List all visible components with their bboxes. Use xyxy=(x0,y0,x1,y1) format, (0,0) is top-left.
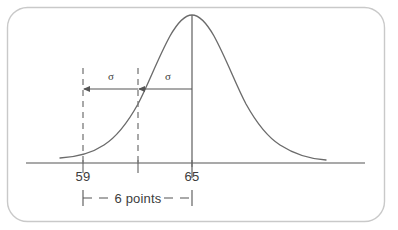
normal-distribution-figure: σ σ 59 65 6 points xyxy=(0,0,398,230)
sigma-left-label: σ xyxy=(108,70,114,82)
distribution-diagram-canvas: σ σ 59 65 6 points xyxy=(0,0,398,230)
bell-curve xyxy=(60,15,326,160)
sigma-right-label: σ xyxy=(165,70,171,82)
bracket-label: 6 points xyxy=(114,191,161,206)
sigma-left-arrowhead xyxy=(83,86,90,92)
sigma-right-arrowhead xyxy=(138,86,145,92)
figure-border xyxy=(8,8,385,222)
axis-label-65: 65 xyxy=(185,169,200,184)
axis-label-59: 59 xyxy=(76,169,91,184)
